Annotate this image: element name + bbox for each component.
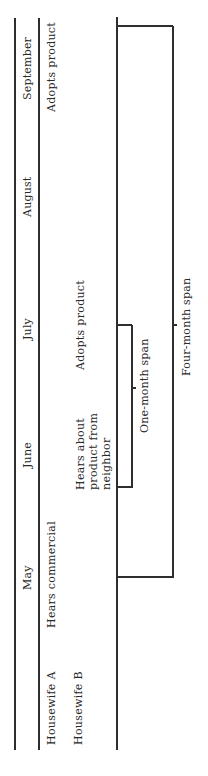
month-august: August (21, 177, 34, 217)
row-label-housewife-b: Housewife B (72, 671, 85, 745)
one-month-tick (131, 388, 136, 390)
top-rule (14, 18, 16, 750)
month-september: September (21, 37, 34, 100)
event-b-line-3: neighbor (100, 410, 113, 490)
one-month-span-label: One-month span (138, 338, 151, 433)
four-month-tick (172, 325, 177, 327)
four-month-right-arm (116, 26, 173, 28)
event-b-line-1: Hears about (74, 410, 87, 490)
event-b-line-2: product from (87, 410, 100, 490)
row-label-housewife-a: Housewife A (45, 671, 58, 745)
event-a-adopts-product: Adopts product (45, 22, 58, 112)
event-a-hears-commercial: Hears commercial (45, 521, 58, 628)
month-may: May (21, 565, 34, 590)
four-month-left-arm (116, 577, 173, 579)
four-month-span-label: Four-month span (180, 278, 193, 376)
baseline-rule (116, 17, 118, 750)
event-b-adopts-product: Adopts product (74, 280, 87, 370)
month-june: June (21, 442, 34, 468)
one-month-left-arm (116, 487, 132, 489)
one-month-right-arm (116, 325, 132, 327)
one-month-bar (131, 325, 133, 488)
adoption-timeline-diagram: May June July August September Housewife… (0, 0, 208, 776)
header-rule (38, 18, 40, 750)
four-month-bar (172, 26, 174, 578)
event-b-hears-from-neighbor: Hears about product from neighbor (74, 410, 113, 490)
month-july: July (21, 318, 34, 340)
